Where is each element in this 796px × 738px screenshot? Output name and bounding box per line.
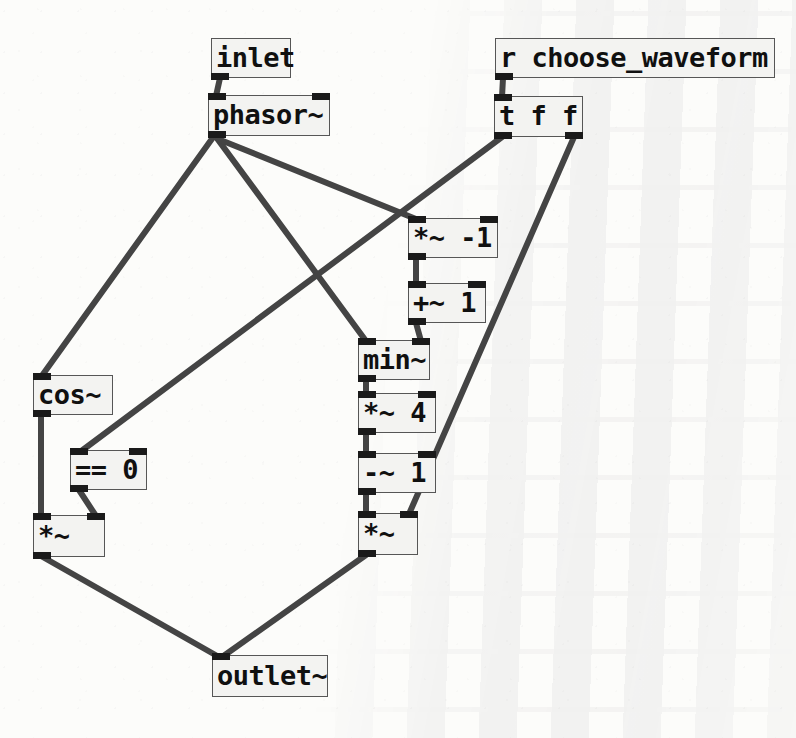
outlet-port-trigger-0[interactable] bbox=[494, 132, 512, 139]
inlet-port-min-1[interactable] bbox=[412, 338, 430, 345]
inlet-port-cos-0[interactable] bbox=[33, 373, 51, 380]
patch-object-inlet[interactable]: inlet bbox=[211, 38, 291, 78]
inlet-port-mul_neg1-0[interactable] bbox=[408, 216, 426, 223]
patch-cord-phasor-to-cos[interactable] bbox=[41, 136, 214, 377]
inlet-port-trigger-0[interactable] bbox=[494, 94, 512, 101]
inlet-port-eq_0-0[interactable] bbox=[70, 448, 88, 455]
patch-object-trigger[interactable]: t f f bbox=[494, 96, 583, 137]
patch-object-outlet[interactable]: outlet~ bbox=[212, 655, 328, 697]
outlet-port-mul_left-0[interactable] bbox=[33, 552, 51, 559]
patch-object-add_1[interactable]: +~ 1 bbox=[408, 283, 486, 323]
inlet-port-mul_4-1[interactable] bbox=[418, 391, 436, 398]
patch-object-label-add_1: +~ 1 bbox=[413, 289, 476, 316]
outlet-port-phasor-0[interactable] bbox=[208, 131, 226, 138]
inlet-port-mul_right-0[interactable] bbox=[358, 511, 376, 518]
patch-object-label-sub_1: -~ 1 bbox=[363, 459, 426, 486]
inlet-port-phasor-1[interactable] bbox=[312, 93, 330, 100]
outlet-port-sub_1-0[interactable] bbox=[358, 488, 376, 495]
patch-object-cos[interactable]: cos~ bbox=[33, 375, 113, 415]
inlet-port-mul_neg1-1[interactable] bbox=[480, 216, 498, 223]
patch-object-label-mul_left: *~ bbox=[38, 522, 70, 549]
outlet-port-mul_right-0[interactable] bbox=[358, 550, 376, 557]
outlet-port-mul_4-0[interactable] bbox=[358, 428, 376, 435]
patch-object-phasor[interactable]: phasor~ bbox=[208, 95, 330, 136]
inlet-port-outlet-0[interactable] bbox=[212, 653, 230, 660]
patch-object-label-trigger: t f f bbox=[499, 102, 578, 129]
patch-object-mul_right[interactable]: *~ bbox=[358, 513, 418, 555]
inlet-port-mul_right-1[interactable] bbox=[400, 511, 418, 518]
inlet-port-sub_1-0[interactable] bbox=[358, 451, 376, 458]
inlet-port-min-0[interactable] bbox=[358, 338, 376, 345]
outlet-port-trigger-1[interactable] bbox=[565, 132, 583, 139]
patch-object-label-inlet: inlet bbox=[216, 44, 295, 71]
inlet-port-mul_4-0[interactable] bbox=[358, 391, 376, 398]
patch-object-eq_0[interactable]: == 0 bbox=[70, 450, 147, 490]
pd-patch-canvas[interactable]: inletphasor~r choose_waveformt f f*~ -1+… bbox=[0, 0, 796, 738]
patch-object-label-mul_neg1: *~ -1 bbox=[413, 224, 492, 251]
patch-cord-mul_left-to-outlet[interactable] bbox=[41, 556, 219, 657]
patch-object-recv[interactable]: r choose_waveform bbox=[495, 38, 775, 78]
patch-object-label-eq_0: == 0 bbox=[75, 456, 138, 483]
outlet-port-mul_neg1-0[interactable] bbox=[408, 253, 426, 260]
inlet-port-add_1-1[interactable] bbox=[468, 281, 486, 288]
patch-object-label-mul_right: *~ bbox=[363, 520, 395, 547]
outlet-port-add_1-0[interactable] bbox=[408, 318, 426, 325]
outlet-port-cos-0[interactable] bbox=[33, 410, 51, 417]
inlet-port-eq_0-1[interactable] bbox=[129, 448, 147, 455]
patch-object-mul_left[interactable]: *~ bbox=[33, 515, 105, 557]
inlet-port-phasor-0[interactable] bbox=[208, 93, 226, 100]
patch-object-label-mul_4: *~ 4 bbox=[363, 399, 426, 426]
patch-cord-mul_right-to-outlet[interactable] bbox=[222, 555, 366, 657]
patch-object-label-min: min~ bbox=[363, 346, 426, 373]
patch-object-mul_neg1[interactable]: *~ -1 bbox=[408, 218, 498, 258]
patch-object-sub_1[interactable]: -~ 1 bbox=[358, 453, 436, 493]
patch-object-label-phasor: phasor~ bbox=[213, 101, 323, 128]
patch-object-label-cos: cos~ bbox=[38, 381, 101, 408]
outlet-port-recv-0[interactable] bbox=[495, 73, 513, 80]
patch-object-label-recv: r choose_waveform bbox=[500, 44, 768, 71]
patch-object-min[interactable]: min~ bbox=[358, 340, 430, 380]
patch-object-label-outlet: outlet~ bbox=[217, 662, 327, 689]
outlet-port-min-0[interactable] bbox=[358, 375, 376, 382]
inlet-port-sub_1-1[interactable] bbox=[418, 451, 436, 458]
outlet-port-eq_0-0[interactable] bbox=[70, 485, 88, 492]
inlet-port-add_1-0[interactable] bbox=[408, 281, 426, 288]
outlet-port-inlet-0[interactable] bbox=[211, 73, 229, 80]
inlet-port-mul_left-1[interactable] bbox=[87, 513, 105, 520]
inlet-port-mul_left-0[interactable] bbox=[33, 513, 51, 520]
patch-object-mul_4[interactable]: *~ 4 bbox=[358, 393, 436, 433]
